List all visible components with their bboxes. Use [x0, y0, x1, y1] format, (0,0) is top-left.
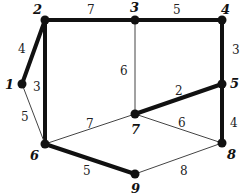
node-label-3: 3: [130, 0, 139, 15]
node-label-2: 2: [32, 2, 42, 17]
node-label-4: 4: [221, 2, 230, 17]
graph-edges: [22, 20, 222, 174]
edge-weight-7-8: 6: [178, 116, 186, 130]
edge-weight-2-3: 7: [87, 3, 95, 17]
edge-weight-3-4: 5: [173, 3, 181, 17]
edge-weight-5-7: 2: [175, 84, 183, 98]
node-1: [18, 80, 27, 89]
node-label-8: 8: [227, 147, 236, 162]
edge-weight-3-7: 6: [120, 64, 128, 78]
edge-weight-9-8: 8: [180, 164, 188, 178]
edge-weight-2-6: 3: [33, 80, 41, 94]
node-label-5: 5: [230, 76, 239, 91]
edge-weight-6-7: 7: [86, 117, 94, 131]
node-9: [131, 170, 140, 179]
edge-weight-6-9: 5: [83, 164, 91, 178]
node-label-1: 1: [5, 77, 14, 92]
node-5: [218, 80, 227, 89]
node-3: [131, 16, 140, 25]
node-label-6: 6: [30, 148, 39, 163]
edge-weight-4-5: 3: [232, 43, 240, 57]
node-6: [41, 140, 50, 149]
graph-nodes: [18, 16, 227, 179]
node-8: [218, 139, 227, 148]
node-label-9: 9: [131, 181, 140, 195]
edge-weight-1-6: 5: [21, 110, 29, 124]
weighted-graph-diagram: 4753563276458 123456789: [0, 0, 243, 195]
node-7: [131, 110, 140, 119]
edge-weight-5-8: 4: [230, 116, 238, 130]
edge-weight-1-2: 4: [18, 42, 26, 56]
edge-9-8: [135, 143, 222, 174]
node-label-7: 7: [131, 122, 140, 137]
